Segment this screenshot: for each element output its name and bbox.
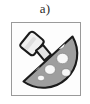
mushroom-illustration	[12, 23, 80, 95]
image-frame	[11, 22, 81, 96]
cap-spot	[62, 69, 71, 77]
cap-spot	[57, 53, 69, 63]
figure-panel: a)	[0, 0, 90, 104]
mushroom-stem-group	[20, 32, 51, 61]
panel-label: a)	[0, 1, 90, 17]
cap-spot	[30, 62, 40, 71]
cap-spot	[37, 75, 44, 81]
cap-spot	[45, 65, 56, 75]
